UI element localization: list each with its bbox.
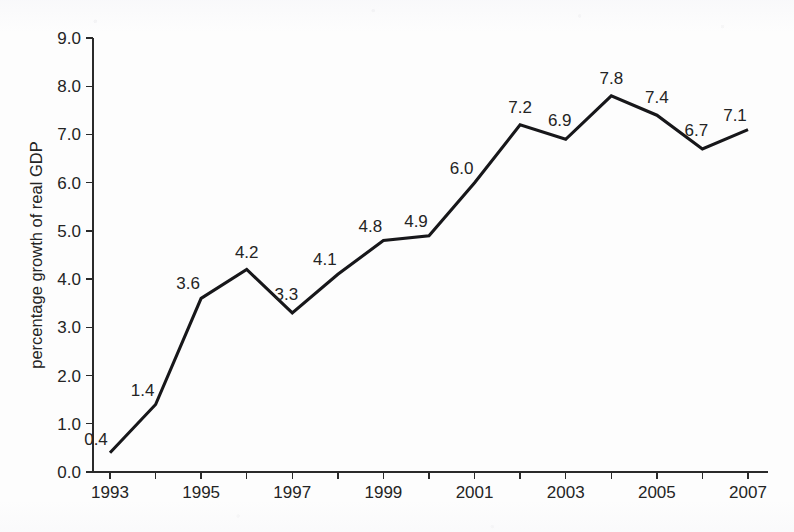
data-point-label: 4.2 bbox=[235, 243, 259, 262]
data-point-label: 6.9 bbox=[548, 111, 572, 130]
data-point-label: 3.3 bbox=[274, 285, 298, 304]
y-axis-tick-label: 7.0 bbox=[57, 125, 81, 144]
x-axis-tick-label: 1993 bbox=[91, 483, 129, 502]
x-axis-tick-label: 1995 bbox=[182, 483, 220, 502]
y-axis-tick-label: 0.0 bbox=[57, 463, 81, 482]
x-axis-tick-label: 1997 bbox=[273, 483, 311, 502]
y-axis-tick-label: 4.0 bbox=[57, 270, 81, 289]
data-point-label: 4.1 bbox=[313, 250, 337, 269]
data-point-label: 6.0 bbox=[450, 159, 474, 178]
x-axis-tick-label: 2003 bbox=[547, 483, 585, 502]
y-axis-tick-label: 8.0 bbox=[57, 77, 81, 96]
data-point-label: 6.7 bbox=[685, 121, 709, 140]
data-point-label: 3.6 bbox=[176, 274, 200, 293]
data-point-labels: 0.41.43.64.23.34.14.84.96.07.26.97.87.46… bbox=[84, 69, 747, 449]
data-point-label: 7.1 bbox=[723, 106, 747, 125]
y-axis-tick-label: 3.0 bbox=[57, 318, 81, 337]
x-axis-tick-label: 2007 bbox=[729, 483, 767, 502]
y-axis-tick-label: 9.0 bbox=[57, 29, 81, 48]
x-axis-tick-label: 2005 bbox=[638, 483, 676, 502]
data-point-label: 7.2 bbox=[508, 98, 532, 117]
chart-page: percentage growth of real GDP 0.01.02.03… bbox=[0, 0, 794, 532]
data-point-label: 4.9 bbox=[404, 212, 428, 231]
x-axis-tick-label: 2001 bbox=[456, 483, 494, 502]
data-point-label: 0.4 bbox=[84, 430, 108, 449]
x-axis-ticks bbox=[110, 472, 748, 479]
y-axis-tick-label: 6.0 bbox=[57, 174, 81, 193]
y-axis-tick-labels: 0.01.02.03.04.05.06.07.08.09.0 bbox=[57, 29, 81, 482]
y-axis-ticks bbox=[86, 38, 93, 472]
data-series-line bbox=[110, 96, 748, 453]
x-axis-tick-label: 1999 bbox=[365, 483, 403, 502]
x-axis-tick-labels: 19931995199719992001200320052007 bbox=[91, 483, 767, 502]
data-point-label: 7.4 bbox=[645, 88, 669, 107]
y-axis-title: percentage growth of real GDP bbox=[27, 141, 45, 368]
data-point-label: 4.8 bbox=[359, 217, 383, 236]
gdp-growth-line-chart: percentage growth of real GDP 0.01.02.03… bbox=[0, 0, 794, 532]
y-axis-tick-label: 2.0 bbox=[57, 367, 81, 386]
y-axis-tick-label: 5.0 bbox=[57, 222, 81, 241]
data-point-label: 7.8 bbox=[599, 69, 623, 88]
data-point-label: 1.4 bbox=[131, 381, 155, 400]
y-axis-tick-label: 1.0 bbox=[57, 415, 81, 434]
